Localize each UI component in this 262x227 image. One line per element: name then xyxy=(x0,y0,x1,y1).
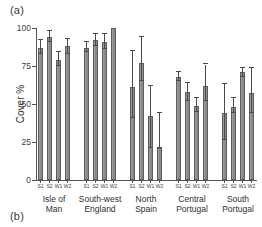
bar-group: S1S2W1W2NorthSpain xyxy=(128,28,164,180)
error-bar-cap xyxy=(203,100,208,101)
error-bar xyxy=(233,98,234,113)
error-bar xyxy=(196,98,197,112)
x-tick-label: W1 xyxy=(55,183,62,189)
error-bar-cap xyxy=(157,112,162,113)
error-bar-cap xyxy=(185,100,190,101)
error-bar xyxy=(251,68,252,114)
bar-slot: S1 xyxy=(174,28,183,180)
y-tick-label: 50 xyxy=(22,99,31,109)
group-label-line: Central xyxy=(176,194,208,204)
error-bar-cap xyxy=(65,38,70,39)
bar xyxy=(111,28,117,180)
bar-slot: S1 xyxy=(220,28,229,180)
bar-slot: S2 xyxy=(137,28,146,180)
bar xyxy=(65,46,71,180)
error-bar-cap xyxy=(148,147,153,148)
bar xyxy=(93,40,99,180)
group-label-line: Man xyxy=(43,204,66,214)
y-tick-label: 0 xyxy=(26,175,31,185)
bar-group: S1S2W1W2Isle ofMan xyxy=(36,28,72,180)
x-tick-label: W2 xyxy=(156,183,163,189)
error-bar-cap xyxy=(84,51,89,52)
error-bar-cap xyxy=(93,45,98,46)
x-tick-label: S1 xyxy=(130,183,136,189)
bar-slot: W1 xyxy=(238,28,247,180)
bar-slot: S2 xyxy=(183,28,192,180)
error-bar-cap xyxy=(231,97,236,98)
x-tick-label: S2 xyxy=(93,183,99,189)
error-bar xyxy=(224,84,225,140)
group-label-line: Portugal xyxy=(176,204,208,214)
error-bar-cap xyxy=(84,41,89,42)
x-tick-label: S2 xyxy=(185,183,191,189)
error-bar-cap xyxy=(194,97,199,98)
x-tick-label: S2 xyxy=(231,183,237,189)
error-bar-cap xyxy=(93,33,98,34)
x-tick-label: W1 xyxy=(147,183,154,189)
bar xyxy=(56,60,62,180)
bar-group: S1S2W1W2SouthPortugal xyxy=(220,28,256,180)
bar xyxy=(231,107,237,180)
x-tick-label: S1 xyxy=(84,183,90,189)
bar xyxy=(84,48,90,180)
y-tick-label: 25 xyxy=(22,137,31,147)
error-bar xyxy=(58,52,59,66)
error-bar-cap xyxy=(185,82,190,83)
bar-slot: S2 xyxy=(91,28,100,180)
x-tick-label: W2 xyxy=(64,183,71,189)
error-bar xyxy=(205,65,206,101)
group-label-line: South-west xyxy=(79,194,122,204)
bar-slot: S2 xyxy=(45,28,54,180)
error-bar-cap xyxy=(231,112,236,113)
bar xyxy=(185,92,191,180)
y-tick-label: 100 xyxy=(17,23,31,33)
x-tick-label: W1 xyxy=(193,183,200,189)
bar xyxy=(176,77,182,180)
x-tick-label: S1 xyxy=(38,183,44,189)
group-label-line: Spain xyxy=(135,204,157,214)
error-bar-cap xyxy=(148,85,153,86)
error-bar xyxy=(141,37,142,81)
plot-area: Cover % 0255075100 S1S2W1W2Isle ofManS1S… xyxy=(36,28,256,180)
group-label: CentralPortugal xyxy=(176,194,208,214)
x-tick-label: W2 xyxy=(110,183,117,189)
bar-slot: S1 xyxy=(36,28,45,180)
error-bar-cap xyxy=(176,80,181,81)
group-label-line: Isle of xyxy=(43,194,66,204)
bar-slot: W2 xyxy=(201,28,210,180)
bar-slot: W2 xyxy=(155,28,164,180)
error-bar-cap xyxy=(240,67,245,68)
error-bar-cap xyxy=(38,53,43,54)
bar xyxy=(102,42,108,180)
error-bar-cap xyxy=(194,111,199,112)
bar-slot: W1 xyxy=(146,28,155,180)
group-label-line: South xyxy=(222,194,254,204)
x-tick-label: W1 xyxy=(101,183,108,189)
error-bar-cap xyxy=(157,147,162,148)
x-tick-label: S1 xyxy=(222,183,228,189)
error-bar-cap xyxy=(47,30,52,31)
bar-slot: W2 xyxy=(63,28,72,180)
x-tick-label: S2 xyxy=(47,183,53,189)
error-bar-cap xyxy=(56,51,61,52)
error-bar xyxy=(187,83,188,101)
error-bar-cap xyxy=(240,76,245,77)
bar xyxy=(47,37,53,180)
panel-a-label: (a) xyxy=(10,4,24,16)
error-bar xyxy=(40,40,41,54)
bar xyxy=(157,148,163,180)
group-label-line: England xyxy=(79,204,122,214)
group-label: SouthPortugal xyxy=(222,194,254,214)
error-bar-cap xyxy=(102,48,107,49)
x-tick-label: S2 xyxy=(139,183,145,189)
error-bar xyxy=(67,39,68,54)
error-bar-cap xyxy=(47,41,52,42)
error-bar xyxy=(159,113,160,148)
group-label-line: North xyxy=(135,194,157,204)
error-bar-cap xyxy=(222,83,227,84)
error-bar-cap xyxy=(56,65,61,66)
error-bar-cap xyxy=(130,50,135,51)
bar-slot: W1 xyxy=(100,28,109,180)
error-bar xyxy=(104,34,105,49)
error-bar xyxy=(132,51,133,118)
